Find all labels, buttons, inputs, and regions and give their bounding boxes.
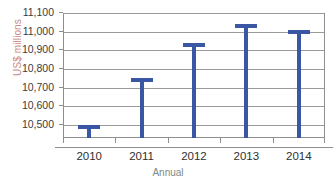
y-axis-tick-label: 10,800: [8, 63, 54, 73]
bar-cap: [288, 30, 310, 34]
x-axis-tick-mark: [273, 138, 274, 143]
y-axis-tick-labels: 10,50010,60010,70010,80010,90011,00011,1…: [8, 0, 54, 183]
x-axis-tick-label: 2012: [168, 150, 220, 162]
x-axis-tick-marks: [63, 138, 325, 143]
x-axis-title: Annual: [0, 167, 336, 178]
y-axis-tick-label: 10,600: [8, 100, 54, 110]
bar: [273, 30, 325, 138]
x-axis-tick-label: 2014: [273, 150, 325, 162]
x-axis-line: [55, 147, 333, 148]
x-axis-tick-mark: [324, 138, 325, 143]
x-axis-tick-label: 2011: [115, 150, 167, 162]
x-axis-tick-mark: [220, 138, 221, 143]
x-axis-tick-mark: [168, 138, 169, 143]
bar-cap: [78, 125, 100, 129]
y-axis-tick-label: 10,900: [8, 44, 54, 54]
bar: [220, 24, 272, 138]
chart-container: US$ millions 10,50010,60010,70010,80010,…: [0, 0, 336, 183]
bar: [168, 43, 220, 138]
y-axis-tick-label: 11,000: [8, 26, 54, 36]
y-axis-tick-label: 11,100: [8, 7, 54, 17]
bar: [115, 78, 167, 138]
bar-cap: [235, 24, 257, 28]
bar-stem: [244, 24, 248, 138]
bar-stem: [140, 78, 144, 138]
bar-cap: [131, 78, 153, 82]
bar-series: [63, 13, 325, 138]
bar: [63, 125, 115, 138]
bar-stem: [192, 43, 196, 138]
y-axis-tick-label: 10,700: [8, 82, 54, 92]
y-axis-tick-label: 10,500: [8, 119, 54, 129]
x-axis-tick-label: 2010: [63, 150, 115, 162]
bar-cap: [183, 43, 205, 47]
x-axis-tick-mark: [63, 138, 64, 143]
x-axis-tick-mark: [115, 138, 116, 143]
bar-stem: [297, 30, 301, 138]
x-axis-tick-label: 2013: [220, 150, 272, 162]
x-axis-tick-labels: 20102011201220132014: [63, 150, 325, 166]
